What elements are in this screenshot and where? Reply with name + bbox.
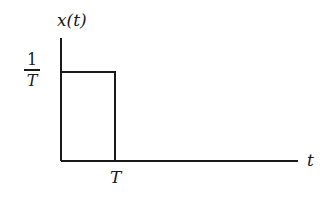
- x-axis-label: t: [307, 150, 314, 170]
- y-axis-label: x(t): [57, 10, 87, 30]
- amplitude-denominator: T: [22, 72, 42, 90]
- amplitude-label: 1 T: [22, 52, 42, 90]
- pulse-plot: [0, 0, 333, 197]
- amplitude-numerator: 1: [22, 52, 42, 68]
- pulse-end-label: T: [110, 167, 121, 187]
- pulse-signal: [61, 72, 115, 161]
